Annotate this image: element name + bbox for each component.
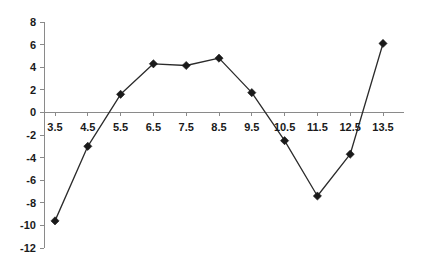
y-axis-tick-label: -12	[20, 242, 36, 254]
y-axis-tick-label: 2	[30, 84, 36, 96]
x-axis-tick-label: 8.5	[211, 121, 226, 133]
y-axis-tick-label: -4	[26, 152, 37, 164]
y-axis-tick-label: 4	[30, 61, 37, 73]
y-axis-tick-label: 8	[30, 16, 36, 28]
x-axis-tick-label: 6.5	[146, 121, 161, 133]
data-point-marker	[182, 61, 190, 69]
x-axis-tick-label: 5.5	[113, 121, 128, 133]
y-axis-tick-label: -10	[20, 219, 36, 231]
data-point-marker	[84, 142, 92, 150]
x-axis-tick-label: 12.5	[339, 121, 360, 133]
x-axis-tick-label: 4.5	[80, 121, 95, 133]
data-point-marker	[379, 39, 387, 47]
y-axis-tick-label: -6	[26, 174, 36, 186]
y-axis-tick-label: -2	[26, 129, 36, 141]
x-axis-tick-label: 7.5	[179, 121, 194, 133]
chart-canvas: 86420-2-4-6-8-10-12 3.54.55.56.57.58.59.…	[0, 0, 422, 268]
line-chart: 86420-2-4-6-8-10-12 3.54.55.56.57.58.59.…	[0, 0, 422, 268]
y-axis-tick-labels: 86420-2-4-6-8-10-12	[20, 16, 37, 254]
x-axis	[44, 112, 404, 116]
x-axis-tick-label: 11.5	[307, 121, 328, 133]
x-axis-tick-label: 10.5	[274, 121, 295, 133]
x-axis-tick-label: 9.5	[244, 121, 259, 133]
x-axis-tick-label: 13.5	[372, 121, 393, 133]
y-axis-tick-label: 6	[30, 39, 36, 51]
y-axis-tick-label: 0	[30, 106, 36, 118]
y-axis	[40, 22, 44, 248]
data-point-marker	[51, 217, 59, 225]
data-point-marker	[281, 137, 289, 145]
x-axis-tick-label: 3.5	[47, 121, 62, 133]
y-axis-tick-label: -8	[26, 197, 36, 209]
